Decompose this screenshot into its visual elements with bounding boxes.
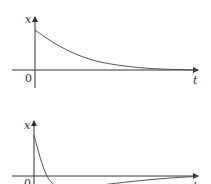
top-origin-label: 0 bbox=[25, 72, 32, 85]
top-y-axis-label: x bbox=[25, 13, 32, 26]
bottom-origin-label: 0 bbox=[24, 177, 31, 184]
bottom-undershoot-curve bbox=[34, 135, 196, 184]
diagram-canvas: x t 0 x t 0 bbox=[0, 0, 211, 184]
bottom-panel: x t 0 bbox=[12, 119, 198, 184]
top-decay-curve bbox=[35, 30, 196, 70]
bottom-x-axis-label: t bbox=[193, 180, 198, 184]
top-panel: x t 0 bbox=[12, 13, 198, 88]
bottom-y-axis-label: x bbox=[24, 119, 31, 132]
top-x-axis-label: t bbox=[193, 74, 198, 87]
